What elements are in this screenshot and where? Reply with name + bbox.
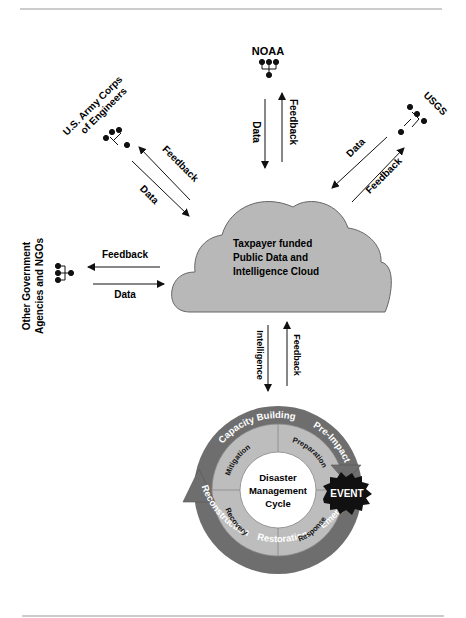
disaster-cycle: Capacity Building Pre-Impact Emergency R… [183, 406, 372, 574]
other-feedback-label: Feedback [102, 249, 149, 260]
usace-feedback-label: Feedback [160, 143, 201, 184]
other-agencies-node: Other Government Agencies and NGOs Feedb… [21, 237, 164, 334]
org-chart-icon [103, 127, 129, 147]
cloud-text-2: Public Data and [233, 252, 308, 263]
center-text-2: Management [249, 485, 308, 496]
usgs-feedback-label: Feedback [363, 155, 404, 196]
usgs-data-label: Data [344, 136, 367, 159]
cloud-text-1: Taxpayer funded [233, 238, 312, 249]
event-label: EVENT [330, 488, 363, 499]
usgs-label: USGS [422, 90, 450, 118]
diagram-canvas: NOAA Data Feedback U.S. Army Corps of En… [0, 0, 466, 618]
data-cloud: Taxpayer funded Public Data and Intellig… [172, 202, 392, 312]
other-data-label: Data [114, 289, 136, 300]
org-chart-icon [259, 59, 278, 77]
usgs-node: USGS Data Feedback [332, 90, 450, 202]
org-chart-icon [398, 104, 426, 134]
other-label-1: Other Government [21, 241, 32, 330]
cloud-cycle-link: Intelligence Feedback [255, 322, 302, 391]
cloud-text-3: Intelligence Cloud [233, 266, 319, 277]
other-label-2: Agencies and NGOs [34, 237, 45, 334]
noaa-label: NOAA [252, 45, 284, 57]
usace-node: U.S. Army Corps of Engineers Data Feedba… [61, 73, 201, 216]
cycle-feedback-label: Feedback [292, 334, 302, 377]
intelligence-label: Intelligence [255, 330, 265, 380]
center-text-3: Cycle [265, 498, 290, 509]
noaa-node: NOAA Data Feedback [251, 45, 299, 168]
event-burst: EVENT [323, 472, 372, 515]
noaa-feedback-label: Feedback [288, 99, 299, 146]
center-text-1: Disaster [259, 472, 297, 483]
org-chart-icon [55, 263, 73, 282]
noaa-data-label: Data [251, 121, 262, 143]
